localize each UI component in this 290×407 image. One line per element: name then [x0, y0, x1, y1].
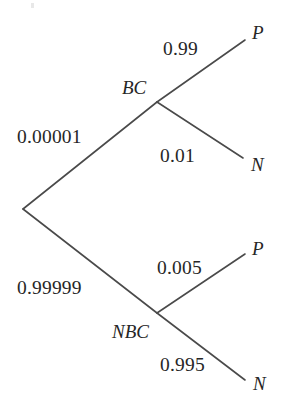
edge-label-p-negative-given-bc: 0.01: [160, 146, 195, 166]
node-label-bc: BC: [122, 78, 146, 97]
leaf-label-negative-bottom: N: [253, 374, 266, 393]
edge-label-p-bc: 0.00001: [17, 127, 82, 147]
leaf-label-positive-top: P: [252, 23, 264, 42]
leaf-label-negative-top: N: [251, 155, 264, 174]
branch-root-to-bc: [23, 102, 157, 209]
edge-label-p-positive-given-bc: 0.99: [163, 39, 198, 59]
edge-label-p-negative-given-nbc: 0.995: [160, 355, 205, 375]
probability-tree-figure: 0.99 BC P 0.01 N 0.00001 0.99999 0.005 P…: [0, 0, 290, 407]
leaf-label-positive-bottom: P: [252, 239, 264, 258]
edge-label-p-nbc: 0.99999: [17, 278, 82, 298]
edge-label-p-positive-given-nbc: 0.005: [157, 258, 202, 278]
node-label-nbc: NBC: [112, 322, 149, 341]
tree-branches: [0, 0, 290, 407]
